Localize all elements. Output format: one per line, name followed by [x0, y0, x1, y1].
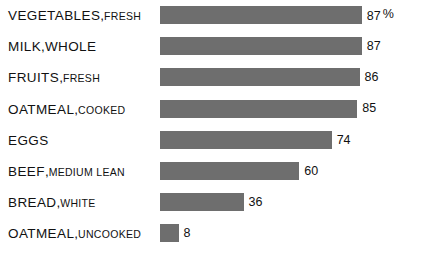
bar-category-label: OATMEAL,UNCOOKED: [8, 225, 156, 241]
percent-sign: %: [383, 7, 394, 21]
bar-track: 60: [160, 159, 318, 183]
bar-category-label-qualifier: MEDIUM LEAN: [49, 166, 125, 178]
bar-value-label: 87: [367, 40, 381, 53]
bar-category-label-qualifier: UNCOOKED: [78, 228, 141, 240]
bar-track: 87%: [160, 3, 394, 27]
bar-track: 74: [160, 128, 351, 152]
bar-row[interactable]: MILK,WHOLE87: [0, 34, 438, 58]
bar-category-label: OATMEAL,COOKED: [8, 101, 156, 117]
bar-category-label: FRUITS,FRESH: [8, 69, 156, 85]
bar-track: 36: [160, 190, 262, 214]
bar-fill: [160, 162, 299, 180]
bar-category-label: BEEF,MEDIUM LEAN: [8, 163, 156, 179]
bar-value-label: 36: [249, 196, 263, 209]
bar-row[interactable]: VEGETABLES,FRESH87%: [0, 3, 438, 27]
bar-fill: [160, 37, 362, 55]
bar-category-label-main: EGGS: [8, 133, 49, 148]
bar-value-number: 8: [184, 226, 191, 240]
bar-row[interactable]: BEEF,MEDIUM LEAN60: [0, 159, 438, 183]
bar-fill: [160, 100, 357, 118]
bar-row[interactable]: OATMEAL,UNCOOKED8: [0, 221, 438, 245]
bar-fill: [160, 6, 362, 24]
bar-category-label-main: OATMEAL: [8, 226, 74, 241]
bar-value-number: 60: [304, 164, 318, 178]
bar-fill: [160, 224, 179, 242]
bar-row[interactable]: FRUITS,FRESH86: [0, 65, 438, 89]
bar-fill: [160, 68, 360, 86]
bar-category-label-main: OATMEAL: [8, 102, 74, 117]
bar-category-label-main: FRUITS: [8, 70, 59, 85]
bar-category-label-qualifier: WHOLE: [45, 39, 97, 54]
bar-value-number: 87: [367, 39, 381, 53]
bar-value-number: 86: [365, 70, 379, 84]
bar-category-label: MILK,WHOLE: [8, 38, 156, 54]
bar-category-label: VEGETABLES,FRESH: [8, 7, 156, 23]
bar-value-label: 60: [304, 165, 318, 178]
bar-track: 85: [160, 97, 376, 121]
bar-value-label: 86: [365, 71, 379, 84]
bar-value-number: 36: [249, 195, 263, 209]
chart-plot-area: VEGETABLES,FRESH87%MILK,WHOLE87FRUITS,FR…: [0, 0, 438, 255]
bar-category-label-qualifier: FRESH: [104, 10, 141, 22]
bar-category-label-qualifier: WHITE: [60, 197, 95, 209]
bar-value-label: 87%: [367, 8, 394, 23]
bar-category-label-qualifier: FRESH: [63, 72, 100, 84]
bar-fill: [160, 131, 332, 149]
bar-category-label-main: BEEF: [8, 164, 45, 179]
bar-row[interactable]: EGGS74: [0, 128, 438, 152]
bar-value-number: 85: [362, 101, 376, 115]
bar-category-label: EGGS: [8, 132, 156, 148]
bar-row[interactable]: BREAD,WHITE36: [0, 190, 438, 214]
bar-track: 87: [160, 34, 381, 58]
bar-category-label-main: MILK: [8, 39, 41, 54]
bar-track: 8: [160, 221, 191, 245]
bar-value-label: 85: [362, 102, 376, 115]
bar-fill: [160, 193, 244, 211]
bar-value-label: 8: [184, 227, 191, 240]
bar-track: 86: [160, 65, 378, 89]
bar-category-label: BREAD,WHITE: [8, 194, 156, 210]
bar-chart: VEGETABLES,FRESH87%MILK,WHOLE87FRUITS,FR…: [0, 0, 438, 255]
bar-category-label-main: VEGETABLES: [8, 8, 100, 23]
bar-category-label-qualifier: COOKED: [78, 104, 125, 116]
bar-value-label: 74: [337, 134, 351, 147]
bar-value-number: 74: [337, 133, 351, 147]
bar-row[interactable]: OATMEAL,COOKED85: [0, 97, 438, 121]
bar-value-number: 87: [367, 9, 381, 23]
bar-category-label-main: BREAD: [8, 195, 57, 210]
